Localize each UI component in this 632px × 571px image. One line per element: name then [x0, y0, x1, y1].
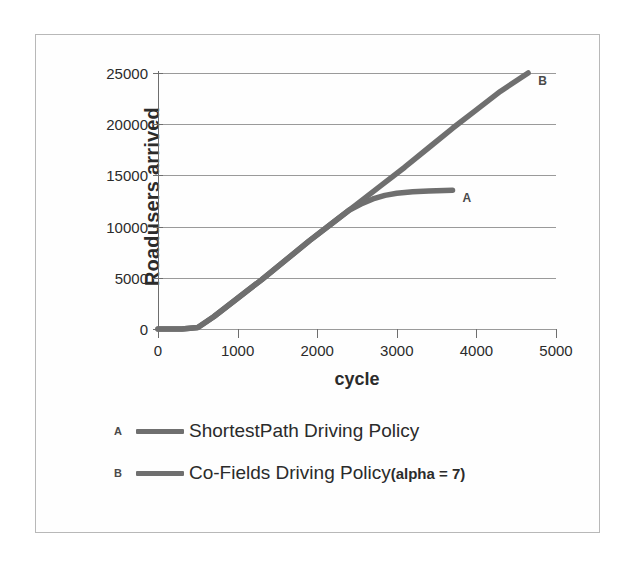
legend-key: B: [114, 467, 136, 479]
x-axis-tick-label: 0: [154, 342, 162, 359]
series-end-label-a: A: [463, 191, 472, 205]
y-axis-tick-label: 25000: [106, 65, 148, 82]
legend-label-suffix: (alpha = 7): [391, 465, 466, 482]
series-end-label-b: B: [538, 74, 547, 88]
legend-label: ShortestPath Driving Policy: [189, 420, 419, 442]
x-axis-tick: [476, 329, 477, 338]
x-axis-tick-label: 2000: [301, 342, 334, 359]
x-axis-tick-label: 5000: [539, 342, 572, 359]
x-axis-tick: [397, 329, 398, 338]
legend-swatch: [136, 471, 184, 476]
series-line-b: [158, 73, 528, 329]
y-axis-tick-label: 15000: [106, 167, 148, 184]
x-axis-tick: [556, 329, 557, 338]
x-axis-tick: [317, 329, 318, 338]
series-lines: [158, 73, 556, 329]
chart-block: Roadusers arrived 0500010000150002000025…: [36, 35, 601, 395]
y-axis-tick-label: 0: [140, 321, 148, 338]
y-axis-tick-label: 10000: [106, 218, 148, 235]
legend-swatch: [136, 429, 184, 434]
legend-entry-a: AShortestPath Driving Policy: [114, 420, 419, 442]
gridline: [158, 329, 556, 330]
legend-entry-b: BCo-Fields Driving Policy (alpha = 7): [114, 462, 465, 484]
x-axis-tick: [238, 329, 239, 338]
x-axis-tick-label: 4000: [460, 342, 493, 359]
x-axis-tick-label: 3000: [380, 342, 413, 359]
plot-area: 0500010000150002000025000 01000200030004…: [158, 73, 556, 329]
series-line-a: [158, 190, 453, 329]
y-axis-tick-label: 5000: [115, 269, 148, 286]
x-axis-tick-label: 1000: [221, 342, 254, 359]
legend-key: A: [114, 425, 136, 437]
legend-label: Co-Fields Driving Policy: [189, 462, 391, 484]
x-axis-title: cycle: [158, 369, 556, 390]
y-axis-tick-label: 20000: [106, 116, 148, 133]
figure-frame: Roadusers arrived 0500010000150002000025…: [35, 34, 600, 533]
